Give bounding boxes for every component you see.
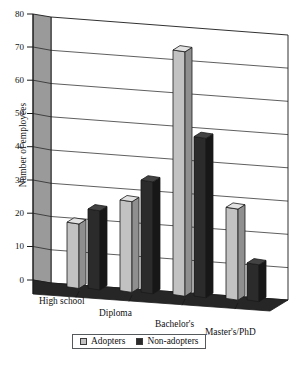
category-label-high-school: High school — [39, 296, 85, 306]
bar-chart: Number of employees 80 70 60 50 40 30 20… — [0, 0, 301, 367]
category-label-diploma: Diploma — [99, 308, 132, 318]
legend-label-non-adopters: Non-adopters — [147, 336, 198, 346]
legend-label-adopters: Adopters — [91, 336, 125, 346]
y-axis — [27, 14, 33, 294]
bar-diploma-adopters — [120, 196, 139, 293]
adopters-swatch-icon — [80, 338, 87, 345]
y-tick-label-70: 70 — [0, 43, 24, 52]
y-tick-label-50: 50 — [0, 109, 24, 118]
y-tick-label-40: 40 — [0, 142, 24, 151]
bar-high-school-non-adopters — [88, 205, 107, 290]
plot-area — [0, 0, 301, 330]
legend-entry-adopters[interactable]: Adopters — [80, 336, 125, 346]
legend: Adopters Non-adopters — [72, 334, 206, 349]
bar-high-school-adopters — [67, 218, 86, 289]
bar-masters-phd-non-adopters — [247, 259, 266, 302]
y-tick-label-30: 30 — [0, 176, 24, 185]
bar-bachelors-adopters — [173, 46, 192, 297]
category-label-masters-phd: Master's/PhD — [205, 327, 256, 337]
bar-masters-phd-adopters — [226, 203, 245, 300]
bar-bachelors-non-adopters — [194, 132, 213, 298]
bar-diploma-non-adopters — [141, 176, 160, 294]
y-tick-label-10: 10 — [0, 242, 24, 251]
y-tick-label-60: 60 — [0, 76, 24, 85]
y-tick-label-20: 20 — [0, 209, 24, 218]
nonadopters-swatch-icon — [136, 338, 143, 345]
y-tick-label-0: 0 — [0, 276, 24, 285]
legend-entry-non-adopters[interactable]: Non-adopters — [136, 336, 198, 346]
y-tick-label-80: 80 — [0, 10, 24, 19]
category-label-bachelors: Bachelor's — [155, 319, 194, 329]
